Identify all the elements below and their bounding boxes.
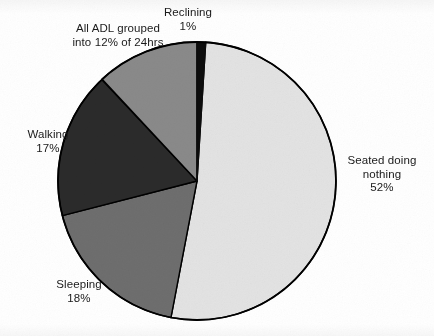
pie-label-walking: Walking 17% — [27, 128, 68, 155]
pie-label-adl-line1: All ADL grouped — [72, 22, 163, 36]
pie-label-all-adl-grouped: All ADL grouped into 12% of 24hrs — [72, 22, 163, 49]
pie-label-reclining-name: Reclining — [164, 6, 212, 20]
pie-label-adl-line2: into 12% of 24hrs — [72, 36, 163, 50]
pie-label-sleeping: Sleeping 18% — [56, 278, 102, 305]
pie-label-sleeping-name: Sleeping — [56, 278, 102, 292]
pie-label-walking-value: 17% — [27, 142, 68, 156]
pie-label-seated-doing-nothing: Seated doing nothing 52% — [348, 154, 417, 195]
pie-label-seated-line2: nothing — [348, 168, 417, 182]
pie-label-seated-line1: Seated doing — [348, 154, 417, 168]
pie-label-walking-name: Walking — [27, 128, 68, 142]
pie-label-seated-value: 52% — [348, 181, 417, 195]
pie-label-reclining-value: 1% — [164, 20, 212, 34]
pie-chart-figure: Reclining 1% All ADL grouped into 12% of… — [0, 0, 434, 336]
pie-label-sleeping-value: 18% — [56, 292, 102, 306]
pie-label-reclining: Reclining 1% — [164, 6, 212, 33]
